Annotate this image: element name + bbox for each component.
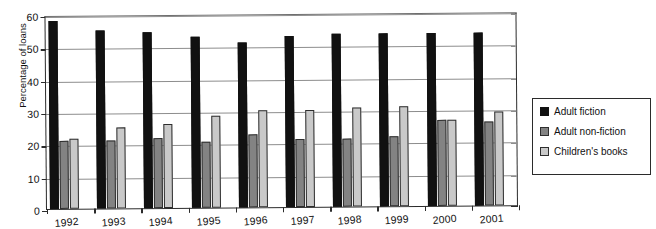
bar [190, 36, 200, 207]
x-axis-tick-label: 1999 [384, 212, 409, 226]
bar [154, 139, 164, 209]
bar-chart: Percentage of loans 01020304050601992199… [0, 0, 656, 229]
y-axis-tick [41, 49, 46, 50]
y-axis-tick-label: 60 [26, 12, 38, 23]
legend-swatch-icon [540, 107, 549, 116]
y-axis-tick-label: 30 [27, 109, 39, 120]
y-axis-tick [42, 179, 47, 180]
plot-area: 0102030405060199219931994199519961997199… [44, 12, 518, 210]
y-axis-tick [42, 146, 47, 147]
x-axis-tick [425, 206, 426, 211]
x-axis-tick [94, 209, 95, 214]
x-axis-tick [236, 207, 237, 212]
bar [59, 141, 69, 209]
x-axis-tick-label: 1998 [337, 213, 362, 227]
bar [437, 120, 447, 206]
y-axis-tick-label: 50 [27, 44, 39, 55]
bar [295, 139, 305, 207]
bar [107, 141, 117, 209]
bar [379, 33, 389, 206]
bar-group [284, 15, 333, 207]
legend-item[interactable]: Adult fiction [540, 106, 650, 117]
x-axis-tick [377, 206, 378, 211]
bar-group [96, 16, 145, 208]
x-axis-tick [189, 208, 190, 213]
bar-group [48, 17, 97, 209]
bar [473, 33, 483, 206]
bar [69, 139, 79, 209]
bar [49, 21, 59, 209]
legend-swatch-icon [540, 147, 549, 156]
x-axis-tick-label: 1993 [101, 214, 126, 228]
bar-group [143, 16, 192, 208]
bar [258, 110, 268, 207]
bar [201, 141, 211, 207]
chart-title [150, 0, 370, 3]
bar-group [426, 14, 475, 206]
y-axis-tick-label: 0 [34, 206, 40, 217]
legend-label: Adult fiction [554, 106, 606, 117]
x-axis-tick-label: 1994 [148, 214, 173, 228]
bar [211, 115, 221, 207]
x-axis-tick [283, 207, 284, 212]
bar [400, 106, 410, 206]
bar [494, 112, 504, 206]
y-axis-tick-label: 40 [27, 76, 39, 87]
x-axis-tick [472, 206, 473, 211]
bar-group [379, 14, 428, 206]
legend-item[interactable]: Adult non-fiction [540, 126, 650, 137]
bar [285, 36, 295, 207]
legend-label: Adult non-fiction [554, 126, 626, 137]
bar [305, 110, 315, 207]
bar-group [473, 13, 522, 205]
x-axis-tick-label: 1997 [290, 213, 315, 227]
legend-label: Children's books [554, 146, 628, 157]
y-axis-tick [41, 114, 46, 115]
x-axis-tick-label: 2001 [479, 212, 504, 226]
bar [390, 137, 400, 207]
bar-group [190, 15, 239, 207]
legend-swatch-icon [540, 127, 549, 136]
bar [96, 31, 106, 209]
bar [117, 128, 127, 209]
bar [248, 135, 258, 208]
x-axis-tick-label: 2000 [432, 212, 457, 226]
x-axis-tick-label: 1992 [54, 215, 79, 229]
bar [237, 43, 247, 208]
x-axis-tick [141, 208, 142, 213]
x-axis-tick [519, 205, 520, 210]
bar [352, 108, 362, 207]
y-axis-tick [40, 17, 45, 18]
bar-group [332, 14, 381, 206]
x-axis-tick [47, 209, 48, 214]
chart-legend: Adult fictionAdult non-fictionChildren's… [532, 98, 651, 175]
x-axis-tick [330, 207, 331, 212]
bar [484, 121, 494, 205]
legend-item[interactable]: Children's books [540, 146, 650, 157]
y-axis-tick-label: 10 [28, 173, 40, 184]
bar [447, 120, 457, 206]
x-axis-tick-label: 1996 [243, 213, 268, 227]
bar [343, 139, 353, 207]
bar [164, 124, 174, 208]
x-axis-tick-label: 1995 [196, 214, 221, 228]
y-axis-tick-label: 20 [27, 141, 39, 152]
bar [426, 33, 436, 206]
y-axis-tick [41, 82, 46, 83]
bar [143, 32, 153, 208]
bar-group [237, 15, 286, 207]
bar [332, 34, 342, 207]
